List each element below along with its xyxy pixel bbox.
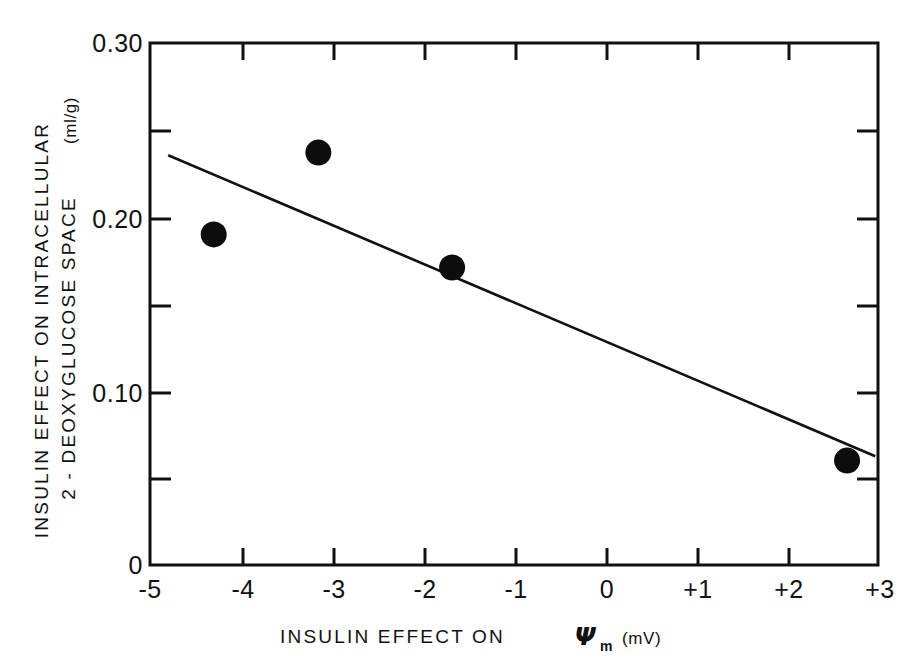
x-axis-title-text: INSULIN EFFECT ON: [280, 626, 505, 647]
data-point[interactable]: [305, 140, 331, 166]
x-tick-label--1: -1: [504, 575, 527, 603]
y-axis-title-line1: INSULIN EFFECT ON INTRACELLULAR: [31, 122, 52, 538]
y-tick-label-0.30: 0.30: [92, 29, 143, 57]
y-tick-label-0.10: 0.10: [92, 379, 143, 407]
x-tick-label--2: -2: [413, 575, 436, 603]
x-tick-label-plus1: +1: [683, 575, 713, 603]
y-axis-title-line2-group: 2 - DEOXYGLUCOSE SPACE (ml/g): [58, 97, 80, 500]
data-point[interactable]: [834, 448, 860, 474]
y-axis-unit: (ml/g): [61, 97, 80, 144]
x-tick-label--3: -3: [322, 575, 345, 603]
regression-line: [168, 155, 875, 456]
plot-frame: [150, 43, 878, 565]
x-tick-label--4: -4: [231, 575, 254, 603]
y-axis-left-ticks: [150, 131, 171, 479]
x-axis-top-ticks: [243, 43, 789, 60]
x-tick-label-plus3: +3: [865, 575, 895, 603]
data-point[interactable]: [439, 254, 465, 280]
y-axis-title: INSULIN EFFECT ON INTRACELLULAR 2 - DEOX…: [31, 97, 80, 538]
scatter-chart: 0.30 0.20 0.10 0 -5 -4 -3 -2 -1 0 +1 +2 …: [0, 0, 922, 666]
x-tick-label-0: 0: [600, 575, 614, 603]
y-axis-right-ticks: [857, 131, 878, 479]
y-tick-labels: 0.30 0.20 0.10 0: [92, 29, 143, 579]
data-point[interactable]: [201, 221, 227, 247]
x-axis-bottom-ticks: [243, 548, 789, 565]
x-axis-title: INSULIN EFFECT ON Ψ m (mV): [280, 622, 661, 654]
y-axis-title-line2: 2 - DEOXYGLUCOSE SPACE: [58, 196, 79, 500]
y-tick-label-0.20: 0.20: [92, 205, 143, 233]
x-tick-label-plus2: +2: [774, 575, 804, 603]
x-tick-labels: -5 -4 -3 -2 -1 0 +1 +2 +3: [138, 575, 894, 603]
fit-line-group: [168, 155, 875, 456]
x-axis-unit: (mV): [622, 629, 661, 648]
data-points-group: [201, 140, 860, 474]
psi-symbol: Ψ: [574, 622, 596, 651]
figure-page: 0.30 0.20 0.10 0 -5 -4 -3 -2 -1 0 +1 +2 …: [0, 0, 922, 666]
x-tick-label--5: -5: [138, 575, 161, 603]
psi-subscript: m: [600, 638, 612, 654]
plot-frame-box: [150, 43, 878, 565]
